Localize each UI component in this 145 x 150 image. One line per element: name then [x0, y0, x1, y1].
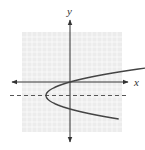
- x-axis-label: x: [133, 76, 139, 88]
- parabola-graph: x y: [0, 0, 145, 150]
- y-axis-label: y: [66, 5, 72, 17]
